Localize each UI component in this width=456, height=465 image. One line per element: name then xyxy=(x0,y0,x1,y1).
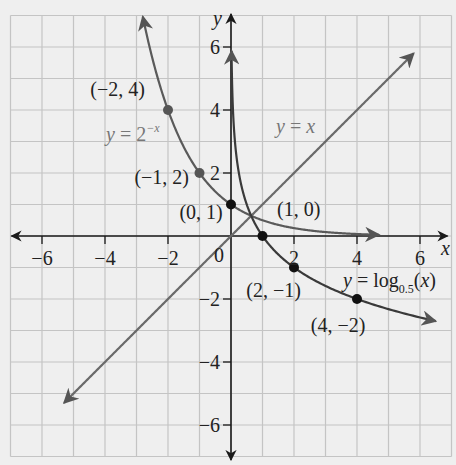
y-axis-label: y xyxy=(211,7,222,30)
data-point xyxy=(226,200,236,210)
x-tick-label: −4 xyxy=(94,247,115,269)
x-tick-label: 6 xyxy=(415,247,425,269)
point-label: (−1, 2) xyxy=(134,166,189,189)
y-tick-label: 4 xyxy=(210,99,220,121)
x-tick-label: 4 xyxy=(352,247,362,269)
y-tick-label: 2 xyxy=(210,162,220,184)
x-tick-label: −2 xyxy=(157,247,178,269)
point-label: (4, −2) xyxy=(311,314,366,337)
curve-0 xyxy=(143,17,379,235)
data-point xyxy=(195,168,205,178)
origin-label: 0 xyxy=(214,244,224,266)
curve-label-identity: y = x xyxy=(274,115,315,138)
y-tick-label: −6 xyxy=(199,414,220,436)
curve-1 xyxy=(64,53,414,403)
data-point xyxy=(258,231,268,241)
x-tick-label: 2 xyxy=(289,247,299,269)
point-label: (2, −1) xyxy=(246,279,301,302)
curve-label-exp: y = 2−x xyxy=(104,121,160,146)
point-label: (1, 0) xyxy=(277,198,320,221)
point-label: (−2, 4) xyxy=(90,78,145,101)
x-axis-label: x xyxy=(440,237,450,259)
data-point xyxy=(352,294,362,304)
y-tick-label: −4 xyxy=(199,351,220,373)
curves xyxy=(64,17,436,403)
x-tick-label: −6 xyxy=(31,247,52,269)
y-tick-label: 6 xyxy=(210,36,220,58)
y-tick-label: −2 xyxy=(199,288,220,310)
data-point xyxy=(163,105,173,115)
function-graph: −6−4−2246−6−4−22460xy(−2, 4)(−1, 2)(0, 1… xyxy=(0,0,456,465)
point-label: (0, 1) xyxy=(179,201,222,224)
